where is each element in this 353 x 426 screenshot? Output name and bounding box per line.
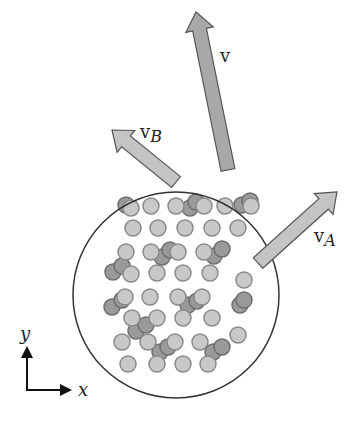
- axis-label-y: y: [19, 323, 31, 344]
- particle-light: [150, 220, 166, 236]
- particle-group: [104, 193, 259, 372]
- particle-light: [177, 220, 193, 236]
- particle-light: [175, 356, 191, 372]
- particle-light: [230, 327, 246, 343]
- particle-light: [125, 220, 141, 236]
- particle-light: [120, 356, 136, 372]
- particle-light: [170, 244, 186, 260]
- diagram-canvas: v vB vA y x: [0, 0, 353, 426]
- particle-light: [170, 289, 186, 305]
- particle-light: [143, 244, 159, 260]
- particle-light: [230, 220, 246, 236]
- particle-light: [124, 310, 140, 326]
- particle-light: [196, 198, 212, 214]
- particle-light: [204, 220, 220, 236]
- particle-light: [236, 272, 252, 288]
- label-vA: vA: [313, 225, 336, 250]
- particle-light: [175, 265, 191, 281]
- coordinate-axes: y x: [19, 323, 88, 400]
- particle-light: [149, 265, 165, 281]
- particle-light: [194, 289, 210, 305]
- particle-light: [117, 289, 133, 305]
- particle-light: [168, 198, 184, 214]
- axis-label-x: x: [78, 379, 88, 400]
- particle-dark: [236, 292, 252, 308]
- particle-light: [204, 310, 220, 326]
- particle-light: [142, 289, 158, 305]
- particle-light: [167, 334, 183, 350]
- particle-light: [123, 266, 139, 282]
- label-vA-sub: A: [322, 231, 336, 250]
- particle-light: [202, 265, 218, 281]
- label-vB-sub: B: [149, 127, 162, 146]
- particle-light: [114, 334, 130, 350]
- particle-light: [140, 334, 156, 350]
- particle-dark: [214, 241, 230, 257]
- particle-light: [217, 198, 233, 214]
- particle-dark: [214, 339, 230, 355]
- particle-light: [149, 356, 165, 372]
- particle-light: [196, 244, 212, 260]
- particle-light: [118, 244, 134, 260]
- particle-light: [175, 310, 191, 326]
- label-vB: vB: [139, 121, 162, 146]
- arrow-v-icon: [186, 12, 235, 171]
- y-axis-arrowhead-icon: [21, 346, 33, 358]
- particle-light: [143, 198, 159, 214]
- x-axis-arrowhead-icon: [60, 384, 72, 396]
- particle-light: [149, 310, 165, 326]
- label-v: v: [219, 45, 231, 66]
- particle-light: [200, 356, 216, 372]
- particle-light: [243, 198, 259, 214]
- particle-light: [192, 334, 208, 350]
